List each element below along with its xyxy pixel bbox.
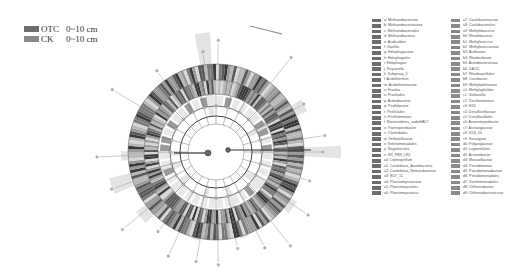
- legend-swatch: [372, 164, 381, 168]
- legend-swatch: [451, 57, 460, 61]
- legend-swatch: [372, 148, 381, 152]
- legend-swatch: [372, 78, 381, 82]
- legend-swatch: [451, 62, 460, 66]
- legend-swatch: [372, 84, 381, 88]
- legend-swatch: [372, 137, 381, 141]
- legend-label: a6: Planctomycetacia: [384, 191, 418, 196]
- legend-swatch: [451, 116, 460, 120]
- legend-swatch: [451, 73, 460, 77]
- legend-swatch: [451, 148, 460, 152]
- legend-swatch: [451, 40, 460, 44]
- legend-item: d9: Chthoniobacteraceae: [451, 191, 503, 196]
- legend-swatch: [451, 111, 460, 115]
- legend-swatch: [372, 154, 381, 158]
- legend-swatch: [451, 175, 460, 179]
- legend-swatch: [451, 30, 460, 34]
- legend-swatch: [451, 24, 460, 28]
- legend-swatch: [451, 78, 460, 82]
- legend-swatch: [451, 159, 460, 163]
- legend-swatch: [451, 170, 460, 174]
- legend-swatch: [451, 51, 460, 55]
- legend-swatch: [451, 100, 460, 104]
- legend-swatch: [451, 19, 460, 23]
- legend-swatch: [372, 181, 381, 185]
- legend-label: d9: Chthoniobacteraceae: [463, 191, 503, 196]
- legend-swatch: [372, 121, 381, 125]
- legend-swatch: [372, 170, 381, 174]
- legend-swatch: [451, 89, 460, 93]
- legend-swatch: [372, 19, 381, 23]
- legend-swatch: [451, 35, 460, 39]
- legend-swatch: [451, 67, 460, 71]
- legend-swatch: [372, 73, 381, 77]
- legend-item: a6: Planctomycetacia: [372, 191, 436, 196]
- legend-swatch: [451, 181, 460, 185]
- legend-swatch: [451, 164, 460, 168]
- legend-swatch: [372, 24, 381, 28]
- legend-swatch: [372, 35, 381, 39]
- legend-swatch: [451, 186, 460, 190]
- legend-swatch: [372, 57, 381, 61]
- legend-swatch: [372, 46, 381, 50]
- legend-swatch: [372, 105, 381, 109]
- legend-swatch: [451, 84, 460, 88]
- legend-swatch: [451, 121, 460, 125]
- legend-swatch: [372, 159, 381, 163]
- legend-swatch: [451, 137, 460, 141]
- legend-swatch: [372, 143, 381, 147]
- legend-swatch: [372, 132, 381, 136]
- legend-swatch: [451, 191, 460, 195]
- legend-swatch: [372, 100, 381, 104]
- legend-swatch: [451, 94, 460, 98]
- legend-swatch: [451, 143, 460, 147]
- taxa-legend-column-2: a7: Caulobacteraceaea8: Caulobacteralesa…: [451, 18, 503, 196]
- legend-swatch: [372, 186, 381, 190]
- legend-swatch: [372, 67, 381, 71]
- legend-swatch: [451, 105, 460, 109]
- legend-swatch: [372, 175, 381, 179]
- taxa-legend-column-1: a: Methanobacteriumb: Methanobacteriacea…: [372, 18, 436, 196]
- legend-swatch: [451, 46, 460, 50]
- legend-swatch: [451, 127, 460, 131]
- legend-swatch: [372, 111, 381, 115]
- legend-swatch: [372, 116, 381, 120]
- legend-swatch: [451, 154, 460, 158]
- legend-swatch: [372, 127, 381, 131]
- legend-swatch: [372, 62, 381, 66]
- legend-swatch: [372, 51, 381, 55]
- legend-swatch: [372, 30, 381, 34]
- legend-swatch: [372, 89, 381, 93]
- legend-swatch: [372, 191, 381, 195]
- legend-swatch: [372, 40, 381, 44]
- legend-swatch: [451, 132, 460, 136]
- legend-swatch: [372, 94, 381, 98]
